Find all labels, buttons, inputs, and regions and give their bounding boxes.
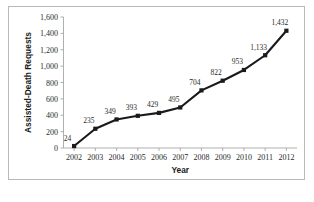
data-point-marker: [114, 117, 118, 121]
y-axis-title: Assisted-Death Requests: [23, 32, 33, 133]
y-axis-tick-label: 800: [46, 79, 58, 88]
data-point-marker: [157, 111, 161, 115]
y-axis-tick-label: 1,000: [40, 62, 58, 71]
y-axis-tick-label: 600: [46, 95, 58, 104]
x-axis-tick-label: 2004: [109, 153, 125, 162]
data-point-label: 953: [232, 57, 244, 66]
x-axis-tick-label: 2007: [172, 153, 188, 162]
x-axis-tick-label: 2002: [66, 153, 82, 162]
x-axis-tick-label: 2012: [278, 153, 294, 162]
y-axis-tick-label: 1,600: [40, 13, 58, 22]
data-point-marker: [136, 114, 140, 118]
x-axis-tick-label: 2005: [130, 153, 146, 162]
y-axis-tick-label: 1,200: [40, 46, 58, 55]
data-point-label: 349: [104, 107, 116, 116]
data-point-label: 704: [189, 78, 201, 87]
data-point-marker: [242, 68, 246, 72]
data-point-marker: [221, 79, 225, 83]
y-axis-tick-label: 0: [54, 144, 58, 153]
x-axis-tick-label: 2009: [215, 153, 231, 162]
x-axis-tick-label: 2003: [87, 153, 103, 162]
data-point-label: 393: [126, 103, 138, 112]
data-point-marker: [284, 29, 288, 33]
data-point-label: 495: [168, 95, 180, 104]
data-point-label: 1,133: [250, 43, 267, 52]
x-axis-tick-label: 2010: [236, 153, 252, 162]
data-point-label: 1,432: [271, 18, 288, 27]
x-axis-tick-label: 2006: [151, 153, 167, 162]
chart-figure: 02004006008001,0001,2001,4001,6002002200…: [0, 0, 314, 202]
data-point-label: 235: [83, 116, 95, 125]
y-axis-tick-label: 1,400: [40, 29, 58, 38]
data-point-marker: [178, 105, 182, 109]
data-point-label: 429: [147, 100, 159, 109]
data-point-marker: [72, 144, 76, 148]
data-point-label: 24: [64, 134, 72, 143]
x-axis-tick-label: 2008: [193, 153, 209, 162]
data-point-marker: [93, 127, 97, 131]
y-axis-tick-label: 400: [46, 111, 58, 120]
x-axis-title: Year: [171, 165, 189, 175]
data-point-marker: [263, 53, 267, 57]
line-chart: 02004006008001,0001,2001,4001,6002002200…: [0, 0, 314, 202]
data-point-label: 822: [211, 68, 223, 77]
x-axis-tick-label: 2011: [257, 153, 273, 162]
data-point-marker: [199, 88, 203, 92]
y-axis-tick-label: 200: [46, 128, 58, 137]
